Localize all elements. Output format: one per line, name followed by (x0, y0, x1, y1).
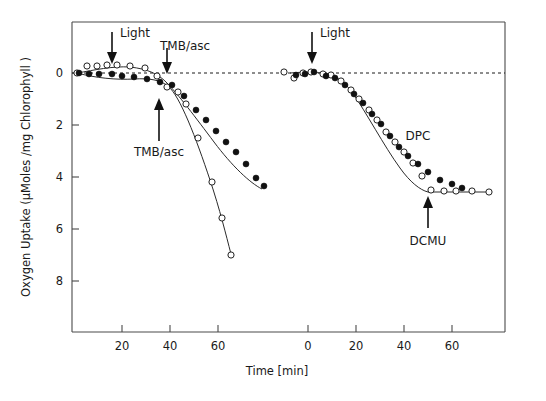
curve-open-left (77, 73, 231, 254)
data-point (223, 139, 229, 145)
left-panel-curves (77, 67, 262, 254)
x-tick-label-right-60: 60 (445, 339, 460, 353)
annotation-light-right: Light (307, 26, 350, 64)
data-point (396, 144, 402, 150)
data-point (405, 153, 411, 159)
annotation-label-dcmu: DCMU (410, 234, 447, 248)
data-point (281, 69, 287, 75)
x-tick-label-left-60: 60 (211, 339, 226, 353)
figure-container: 0 2 4 6 8 20 40 60 0 20 40 60 Tim (0, 0, 546, 401)
data-point (169, 82, 175, 88)
data-point (183, 101, 189, 107)
data-point (378, 121, 384, 127)
data-point (233, 149, 239, 155)
data-point (415, 161, 421, 167)
data-point (76, 70, 82, 76)
data-point (142, 65, 148, 71)
data-point (311, 69, 317, 75)
arrow-up-icon (154, 98, 164, 110)
data-point (428, 187, 434, 193)
data-point (449, 181, 455, 187)
y-tick-label-8: 8 (56, 274, 63, 288)
data-point (127, 63, 133, 69)
data-point (131, 74, 137, 80)
y-tick-label-4: 4 (56, 170, 63, 184)
data-point (243, 161, 249, 167)
data-point (175, 89, 181, 95)
x-axis-title: Time [min] (245, 364, 308, 378)
data-point (94, 63, 100, 69)
data-point (261, 183, 267, 189)
annotation-light-left: Light (107, 26, 150, 64)
y-axis-ticks (72, 73, 79, 281)
data-point (119, 73, 125, 79)
data-point (441, 188, 447, 194)
y-tick-label-2: 2 (56, 118, 63, 132)
arrow-down-icon (307, 52, 317, 64)
data-point (469, 188, 475, 194)
data-point (425, 169, 431, 175)
data-point (203, 117, 209, 123)
annotation-dcmu: DCMU (410, 196, 447, 248)
x-tick-label-right-20: 20 (349, 339, 364, 353)
x-tick-label-right-0: 0 (304, 339, 311, 353)
annotation-label-light-right: Light (320, 26, 350, 40)
y-tick-label-0: 0 (56, 66, 63, 80)
data-point (181, 93, 187, 99)
data-point (459, 185, 465, 191)
annotation-label-light-left: Light (120, 26, 150, 40)
data-point (114, 62, 120, 68)
data-point (387, 133, 393, 139)
annotation-tmb-asc-top: TMB/asc (159, 39, 210, 74)
data-point (144, 76, 150, 82)
data-point (253, 175, 259, 181)
data-point (437, 177, 443, 183)
data-point (195, 135, 201, 141)
annotation-label-tmb-asc-top: TMB/asc (159, 39, 210, 53)
left-panel-open-points (74, 62, 234, 258)
data-point (157, 79, 163, 85)
data-point (228, 252, 234, 258)
data-point (84, 63, 90, 69)
data-point (332, 75, 338, 81)
annotation-label-dpc: DPC (406, 129, 431, 143)
data-point (360, 100, 366, 106)
data-point (302, 71, 308, 77)
data-point (209, 179, 215, 185)
data-point (154, 73, 160, 79)
data-point (369, 111, 375, 117)
data-point (219, 215, 225, 221)
y-axis-title: Oxygen Uptake (µMoles /mg Chlorophyll ) (19, 57, 33, 297)
x-tick-label-left-20: 20 (115, 339, 130, 353)
x-tick-label-left-40: 40 (163, 339, 178, 353)
data-point (392, 139, 398, 145)
annotation-tmb-asc-bottom: TMB/asc (133, 98, 184, 159)
data-point (193, 107, 199, 113)
arrow-up-icon (423, 196, 433, 208)
x-axis-ticks (122, 325, 452, 332)
data-point (486, 189, 492, 195)
data-point (323, 73, 329, 79)
data-point (453, 188, 459, 194)
curve-dpc-right (290, 72, 490, 192)
x-axis-tick-labels: 20 40 60 0 20 40 60 (115, 339, 460, 353)
data-point (109, 71, 115, 77)
data-point (293, 72, 299, 78)
data-point (104, 62, 110, 68)
data-point (419, 173, 425, 179)
data-point (342, 82, 348, 88)
annotation-label-tmb-asc-bottom: TMB/asc (133, 145, 184, 159)
oxygen-uptake-chart: 0 2 4 6 8 20 40 60 0 20 40 60 Tim (0, 0, 546, 401)
right-panel-filled-points (293, 69, 465, 191)
y-tick-label-6: 6 (56, 222, 63, 236)
arrow-down-icon (162, 62, 172, 74)
x-tick-label-right-40: 40 (397, 339, 412, 353)
data-point (96, 71, 102, 77)
data-point (86, 71, 92, 77)
right-panel-open-points (281, 69, 492, 195)
y-axis-tick-labels: 0 2 4 6 8 (56, 66, 63, 288)
right-panel-curves (290, 72, 490, 192)
data-point (351, 91, 357, 97)
data-point (213, 128, 219, 134)
